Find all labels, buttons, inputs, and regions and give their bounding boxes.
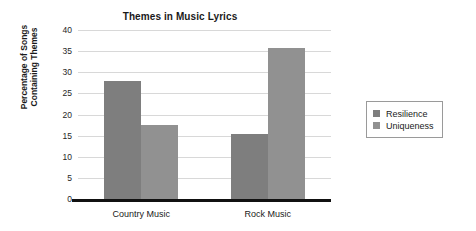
chart-legend: ResilienceUniqueness — [366, 101, 443, 138]
legend-label: Resilience — [386, 109, 428, 119]
y-axis-label-text: Percentage of Songs Containing Themes — [19, 25, 40, 110]
x-axis-tick-label: Country Music — [112, 209, 170, 219]
x-axis-tick-label: Rock Music — [244, 209, 291, 219]
chart-figure: Themes in Music Lyrics Percentage of Son… — [0, 0, 476, 231]
chart-title: Themes in Music Lyrics — [0, 11, 360, 22]
y-axis-tick-label: 20 — [63, 110, 72, 120]
legend-item-resilience[interactable]: Resilience — [373, 108, 434, 119]
y-axis-tick-label: 40 — [63, 25, 72, 35]
legend-label: Uniqueness — [386, 121, 434, 131]
bar-uniqueness-country-music — [141, 125, 178, 199]
bar-resilience-country-music — [104, 81, 141, 199]
y-axis-label-line-2: Containing Themes — [29, 28, 39, 107]
y-axis-tick-label: 30 — [63, 67, 72, 77]
y-axis-tick-label: 25 — [63, 88, 72, 98]
y-axis-label: Percentage of Songs Containing Themes — [14, 0, 44, 142]
plot-area: 0510152025303540 Country MusicRock Music — [78, 30, 331, 199]
legend-swatch-icon — [373, 122, 380, 129]
y-axis-label-line-1: Percentage of Songs — [19, 25, 29, 110]
legend-item-uniqueness[interactable]: Uniqueness — [373, 120, 434, 131]
bar-uniqueness-rock-music — [268, 48, 305, 199]
legend-swatch-icon — [373, 110, 380, 117]
y-axis-tick-label: 10 — [63, 152, 72, 162]
bar-resilience-rock-music — [231, 134, 268, 199]
gridline — [78, 30, 331, 31]
x-axis-baseline — [72, 199, 331, 202]
y-axis-tick-label: 15 — [63, 131, 72, 141]
y-axis-tick-label: 35 — [63, 46, 72, 56]
y-axis-tick-label: 5 — [67, 173, 72, 183]
